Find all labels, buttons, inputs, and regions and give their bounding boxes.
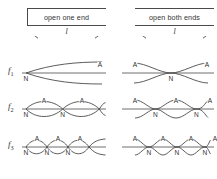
- mark-antinode: A: [188, 136, 193, 143]
- tube-open-one-end: open one end: [27, 8, 106, 26]
- harmonic-label-f1-left: f1: [8, 65, 14, 77]
- waveform-left-f1: N A: [22, 56, 106, 90]
- mark-node: N: [168, 76, 174, 83]
- mark-antinode: A: [55, 136, 60, 143]
- column-open-one-end: open one end l f1 N A: [6, 0, 106, 179]
- waveform-left-f3: N A N A N A: [22, 130, 106, 164]
- mark-antinode: A: [77, 136, 82, 143]
- length-label-left: l: [30, 27, 103, 36]
- mark-antinode: A: [132, 136, 137, 143]
- mark-node: N: [65, 150, 71, 157]
- waveform-left-f2: N A N A: [22, 92, 106, 126]
- mark-node: N: [23, 76, 29, 83]
- mark-antinode: A: [204, 62, 209, 69]
- mark-antinode: A: [132, 98, 137, 105]
- harmonic-label-f3-left: f3: [8, 139, 14, 151]
- mark-antinode: A: [160, 136, 165, 143]
- mark-node: N: [60, 112, 66, 119]
- mark-node: N: [153, 112, 159, 119]
- waveform-right-f2: A N A N A: [130, 92, 214, 126]
- mark-antinode: A: [34, 136, 39, 143]
- mark-node: N: [146, 150, 152, 157]
- harmonic-label-f2-left: f2: [8, 101, 14, 113]
- mark-antinode: A: [207, 98, 212, 105]
- harmonic-row-right-f1: A N A: [114, 56, 214, 90]
- harmonic-row-right-f3: A N A N A N A: [114, 130, 214, 164]
- mark-antinode: A: [212, 136, 217, 143]
- mark-antinode: A: [97, 62, 102, 69]
- harmonic-row-left-f1: f1 N A: [6, 56, 106, 90]
- mark-node: N: [194, 112, 200, 119]
- length-label-right: l: [138, 27, 211, 36]
- column-open-both-ends: open both ends l A N A: [114, 0, 214, 179]
- waveform-right-f1: A N A: [130, 56, 214, 90]
- length-dimension-left: l: [30, 28, 103, 41]
- tube-open-both-ends: open both ends: [135, 8, 214, 26]
- tube-header-label: open one end: [27, 8, 106, 26]
- mark-node: N: [44, 150, 50, 157]
- harmonic-row-left-f3: f3 N A N A N A: [6, 130, 106, 164]
- mark-antinode: A: [79, 98, 84, 105]
- tube-header-label: open both ends: [135, 8, 214, 26]
- length-dimension-right: l: [138, 28, 211, 41]
- waveform-right-f3: A N A N A N A: [130, 130, 214, 164]
- mark-antinode: A: [41, 98, 46, 105]
- mark-node: N: [202, 150, 208, 157]
- mark-node: N: [23, 112, 29, 119]
- harmonic-row-right-f2: A N A N A: [114, 92, 214, 126]
- mark-antinode: A: [132, 62, 137, 69]
- mark-node: N: [23, 150, 29, 157]
- mark-node: N: [174, 150, 180, 157]
- mark-antinode: A: [173, 98, 178, 105]
- standing-wave-figure: open one end l f1 N A: [0, 0, 217, 179]
- harmonic-row-left-f2: f2 N A N A: [6, 92, 106, 126]
